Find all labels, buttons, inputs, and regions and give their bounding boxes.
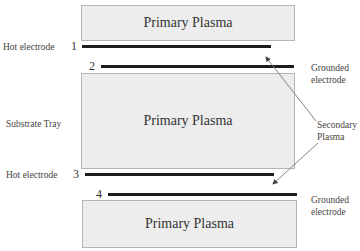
- secondary-plasma-arrows: [0, 0, 360, 251]
- arrow-to-lower-gap-icon: [273, 143, 318, 184]
- arrow-to-upper-gap-icon: [266, 57, 316, 121]
